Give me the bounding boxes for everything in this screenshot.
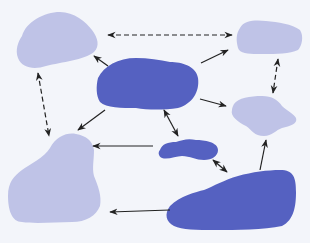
edge-center-top-right xyxy=(201,50,228,63)
node-bottom-left xyxy=(8,134,101,223)
edge-bottom-right-mid-right xyxy=(260,140,266,170)
node-center xyxy=(97,58,199,110)
edge-center-small-center xyxy=(164,110,178,136)
edge-top-left-bottom-left xyxy=(38,73,49,136)
edge-center-bottom-left xyxy=(78,110,105,130)
edge-center-mid-right xyxy=(200,99,226,106)
node-bottom-right xyxy=(167,170,296,230)
edge-small-center-bottom-right xyxy=(213,160,227,172)
node-small-center xyxy=(159,139,218,160)
node-top-right xyxy=(237,21,302,55)
edge-top-right-mid-right xyxy=(273,59,278,93)
edge-center-top-left xyxy=(94,56,108,66)
node-top-left xyxy=(17,12,98,68)
blob-network-diagram xyxy=(0,0,310,243)
node-mid-right xyxy=(232,96,297,136)
edge-bottom-right-bottom-left xyxy=(110,210,170,212)
